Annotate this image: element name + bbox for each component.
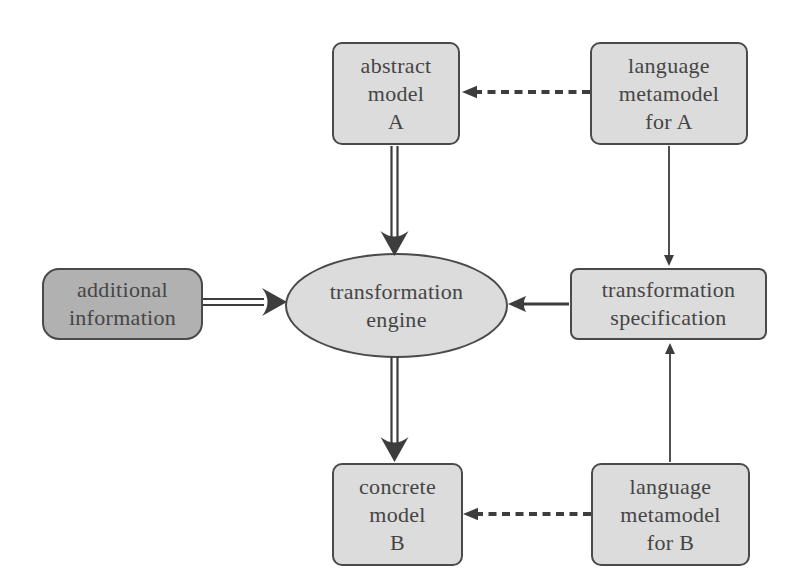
- node-label-line: B: [390, 529, 405, 557]
- node-label-line: engine: [366, 306, 426, 334]
- arrowhead-left-icon: [508, 296, 526, 312]
- edge-metamodel-a-to-abstract-model-a: [462, 86, 590, 98]
- arrowhead-left-icon: [462, 86, 477, 98]
- edge-specification-to-engine: [508, 296, 569, 312]
- node-label-line: transformation: [330, 278, 464, 306]
- node-label-line: for A: [645, 108, 692, 136]
- node-label-line: language: [630, 473, 712, 501]
- node-label-line: for B: [647, 529, 694, 557]
- edge-additional-information-to-engine: [203, 288, 287, 316]
- arrowhead-up-icon: [665, 343, 675, 354]
- diagram-canvas: abstract model A language metamodel for …: [0, 0, 804, 587]
- node-label-line: specification: [610, 304, 726, 332]
- node-label-line: information: [69, 304, 176, 332]
- node-label-line: model: [369, 501, 426, 529]
- node-label-line: language: [628, 52, 710, 80]
- arrowhead-down-icon: [664, 255, 674, 266]
- node-label-line: additional: [77, 276, 168, 304]
- node-label-line: concrete: [359, 473, 436, 501]
- node-language-metamodel-a: language metamodel for A: [590, 42, 748, 145]
- arrowhead-left-icon: [463, 508, 478, 520]
- node-language-metamodel-b: language metamodel for B: [591, 463, 750, 566]
- edge-abstract-model-a-to-engine: [381, 146, 409, 256]
- node-label-line: metamodel: [620, 501, 720, 529]
- arrowhead-right-icon: [262, 288, 287, 316]
- node-label-line: abstract: [361, 52, 432, 80]
- node-abstract-model-a: abstract model A: [332, 42, 460, 145]
- node-label-line: model: [368, 80, 425, 108]
- arrowhead-down-icon: [381, 437, 409, 462]
- node-label-line: transformation: [602, 276, 736, 304]
- node-transformation-specification: transformation specification: [570, 268, 767, 340]
- edge-metamodel-b-to-concrete-model-b: [463, 508, 591, 520]
- node-label-line: metamodel: [619, 80, 719, 108]
- edge-engine-to-concrete-model-b: [381, 357, 409, 462]
- node-transformation-engine: transformation engine: [285, 253, 508, 358]
- node-concrete-model-b: concrete model B: [332, 463, 463, 566]
- edge-metamodel-b-to-specification: [665, 343, 675, 462]
- node-label-line: A: [388, 108, 404, 136]
- edge-metamodel-a-to-specification: [664, 146, 674, 266]
- node-additional-information: additional information: [42, 268, 203, 340]
